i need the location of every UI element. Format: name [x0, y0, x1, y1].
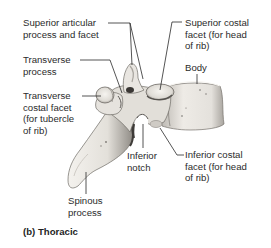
label-body: Body [185, 62, 207, 74]
label-transverse-process: Transverse process [23, 54, 71, 77]
label-inferior-notch: Inferior notch [127, 150, 157, 173]
figure-thoracic-vertebra: Superior articular process and facet Tra… [0, 0, 271, 248]
leader-transverse-process [80, 60, 122, 93]
label-transverse-costal-facet: Transverse costal facet (for tubercle of… [23, 90, 74, 136]
leader-inferior-costal-facet [160, 128, 184, 155]
label-superior-articular-process: Superior articular process and facet [23, 17, 99, 40]
label-inferior-costal-facet: Inferior costal facet (for head of rib) [185, 149, 247, 184]
leader-superior-costal-facet [160, 22, 182, 90]
leader-superior-articular-b [130, 23, 143, 79]
figure-caption: (b) Thoracic [23, 226, 78, 237]
label-spinous-process: Spinous process [68, 195, 103, 218]
leader-superior-articular-a [108, 23, 132, 65]
label-superior-costal-facet: Superior costal facet (for head of rib) [185, 17, 249, 52]
